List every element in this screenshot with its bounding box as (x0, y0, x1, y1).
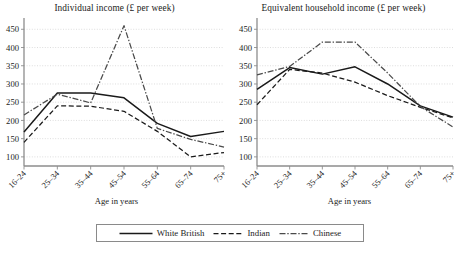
caption-strip-cropped (0, 246, 458, 255)
svg-text:35–44: 35–44 (305, 168, 327, 190)
charts-row: Individual income (£ per week) 100150200… (0, 0, 458, 215)
legend-swatch-dashed-icon (213, 230, 243, 237)
svg-text:16–24: 16–24 (7, 168, 29, 190)
series-line-indian (24, 106, 224, 157)
legend-swatch-dash-dot-icon (279, 230, 309, 237)
svg-text:250: 250 (6, 97, 19, 107)
svg-text:25–34: 25–34 (272, 168, 294, 190)
figure: Individual income (£ per week) 100150200… (0, 0, 458, 255)
svg-text:45–54: 45–54 (338, 168, 360, 190)
svg-text:200: 200 (6, 116, 19, 126)
series-line-chinese (257, 42, 453, 127)
legend-entries: White BritishIndianChinese (97, 225, 363, 241)
svg-text:300: 300 (239, 79, 252, 89)
legend-entry-indian: Indian (213, 228, 269, 238)
svg-text:75+: 75+ (212, 169, 228, 185)
svg-text:200: 200 (239, 116, 252, 126)
svg-text:25–34: 25–34 (40, 168, 62, 190)
legend-label: Indian (247, 228, 269, 238)
svg-text:400: 400 (239, 43, 252, 53)
svg-text:450: 450 (6, 24, 19, 34)
svg-text:65–74: 65–74 (173, 168, 195, 190)
legend-entry-chinese: Chinese (279, 228, 341, 238)
svg-text:400: 400 (6, 43, 19, 53)
caption-ghost-text (2, 246, 4, 250)
x-axis-label-right: Age in years (235, 196, 458, 206)
svg-text:350: 350 (6, 61, 19, 71)
svg-text:450: 450 (239, 24, 252, 34)
svg-text:75+: 75+ (441, 169, 457, 185)
svg-text:55–64: 55–64 (370, 168, 392, 190)
legend-label: Chinese (313, 228, 341, 238)
series-line-indian (257, 69, 453, 117)
series-line-chinese (24, 26, 224, 147)
svg-text:100: 100 (239, 152, 252, 162)
plot-area-equivalent-household-income: 10015020025030035040045016–2425–3435–444… (229, 0, 458, 215)
svg-text:300: 300 (6, 79, 19, 89)
svg-text:55–64: 55–64 (140, 168, 162, 190)
series-line-white-british (24, 93, 224, 136)
svg-text:150: 150 (239, 134, 252, 144)
chart-panel-individual-income: Individual income (£ per week) 100150200… (0, 0, 229, 215)
svg-text:45–54: 45–54 (107, 168, 129, 190)
legend-swatch-solid-icon (119, 230, 153, 237)
chart-panel-equivalent-household-income: Equivalent household income (£ per week)… (229, 0, 458, 215)
legend-label: White British (157, 228, 205, 238)
svg-text:35–44: 35–44 (73, 168, 95, 190)
svg-text:150: 150 (6, 134, 19, 144)
x-axis-label-left: Age in years (2, 196, 231, 206)
chart-legend: White BritishIndianChinese (96, 224, 364, 242)
legend-entry-white-british: White British (119, 228, 205, 238)
svg-text:350: 350 (239, 61, 252, 71)
series-line-white-british (257, 67, 453, 117)
svg-text:250: 250 (239, 97, 252, 107)
plot-area-individual-income: 10015020025030035040045016–2425–3435–444… (0, 0, 229, 215)
svg-text:65–74: 65–74 (403, 168, 425, 190)
svg-text:16–24: 16–24 (240, 168, 262, 190)
svg-text:100: 100 (6, 152, 19, 162)
